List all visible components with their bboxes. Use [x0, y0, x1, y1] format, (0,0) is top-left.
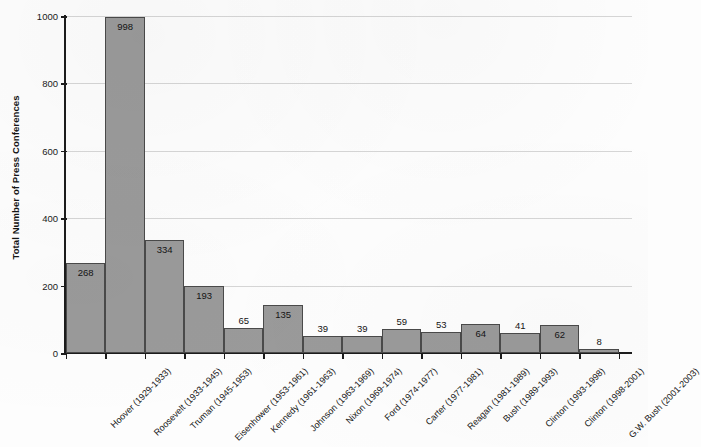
x-tick-mark — [579, 353, 580, 359]
x-tick-mark — [263, 353, 264, 359]
gridline — [66, 151, 632, 152]
bar[interactable]: 62 — [540, 325, 579, 353]
x-tick-mark — [66, 353, 67, 359]
bar-value-label: 65 — [238, 315, 249, 326]
bar-value-label: 193 — [196, 290, 212, 301]
bar[interactable]: 193 — [184, 286, 223, 353]
bar[interactable]: 64 — [461, 324, 500, 353]
bar-value-label: 334 — [157, 244, 173, 255]
y-axis-title: Total Number of Press Conferences — [6, 0, 24, 355]
y-tick-mark — [61, 151, 67, 153]
x-tick-mark — [145, 353, 146, 359]
y-tick-mark — [61, 218, 67, 220]
bar-value-label: 53 — [436, 319, 447, 330]
bar[interactable]: 53 — [421, 332, 460, 353]
gridline — [66, 16, 632, 17]
x-tick-mark — [500, 353, 501, 359]
gridline — [66, 83, 632, 84]
bar[interactable]: 59 — [382, 329, 421, 353]
bar[interactable]: 334 — [145, 240, 184, 353]
x-tick-mark — [342, 353, 343, 359]
y-tick-label: 600 — [42, 145, 58, 156]
y-tick-label: 0 — [53, 348, 58, 359]
bar[interactable]: 8 — [579, 349, 618, 353]
bar[interactable]: 135 — [263, 305, 302, 353]
x-tick-mark — [184, 353, 185, 359]
bar-value-label: 59 — [396, 316, 407, 327]
bar-value-label: 39 — [357, 323, 368, 334]
y-tick-label: 200 — [42, 280, 58, 291]
x-tick-mark — [224, 353, 225, 359]
bar[interactable]: 65 — [224, 328, 263, 353]
x-axis-label: Truman (1945-1953) — [189, 366, 254, 431]
bar[interactable]: 39 — [342, 336, 381, 353]
bar[interactable]: 41 — [500, 333, 539, 353]
x-tick-mark — [105, 353, 106, 359]
plot-area: 02004006008001000 2689983341936513539395… — [66, 16, 632, 353]
y-tick-label: 400 — [42, 213, 58, 224]
bar[interactable]: 39 — [303, 336, 342, 353]
x-tick-mark — [540, 353, 541, 359]
x-tick-mark — [619, 353, 620, 359]
bar-value-label: 41 — [515, 320, 526, 331]
y-tick-label: 1000 — [37, 11, 58, 22]
bar[interactable]: 998 — [105, 17, 144, 353]
x-tick-mark — [303, 353, 304, 359]
y-axis-title-label: Total Number of Press Conferences — [10, 95, 21, 259]
x-tick-mark — [461, 353, 462, 359]
x-tick-mark — [421, 353, 422, 359]
bar-value-label: 998 — [117, 21, 133, 32]
bar[interactable]: 268 — [66, 263, 105, 353]
gridline — [66, 218, 632, 219]
y-tick-mark — [61, 83, 67, 85]
x-tick-mark — [382, 353, 383, 359]
y-tick-mark — [61, 16, 67, 18]
bar-value-label: 135 — [275, 309, 291, 320]
bar-value-label: 64 — [475, 328, 486, 339]
bar-value-label: 268 — [78, 267, 94, 278]
bar-value-label: 62 — [554, 329, 565, 340]
bar-value-label: 39 — [317, 323, 328, 334]
bar-value-label: 8 — [597, 336, 602, 347]
y-tick-label: 800 — [42, 78, 58, 89]
